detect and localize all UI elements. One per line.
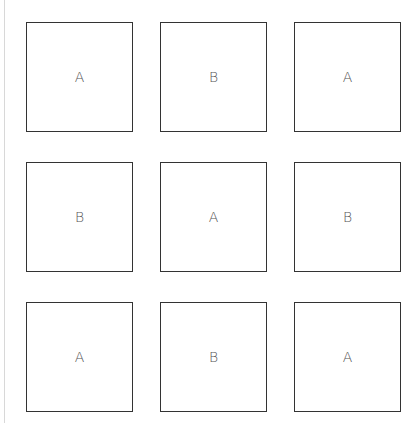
- grid-cell-r3-c1: A: [26, 302, 133, 412]
- cell-label: B: [209, 69, 218, 85]
- cell-label: B: [343, 209, 352, 225]
- grid-cell-r3-c3: A: [294, 302, 401, 412]
- cell-label: A: [75, 69, 85, 85]
- grid-cell-r2-c1: B: [26, 162, 133, 272]
- cell-label: A: [343, 349, 353, 365]
- cell-label: A: [343, 69, 353, 85]
- cell-label: B: [209, 349, 218, 365]
- grid-cell-r2-c3: B: [294, 162, 401, 272]
- grid-cell-r2-c2: A: [160, 162, 267, 272]
- grid-cell-r1-c3: A: [294, 22, 401, 132]
- left-border-rule: [4, 0, 5, 423]
- grid-cell-r3-c2: B: [160, 302, 267, 412]
- cell-label: A: [75, 349, 85, 365]
- cell-label: A: [209, 209, 219, 225]
- grid-cell-r1-c2: B: [160, 22, 267, 132]
- grid-cell-r1-c1: A: [26, 22, 133, 132]
- cell-label: B: [75, 209, 84, 225]
